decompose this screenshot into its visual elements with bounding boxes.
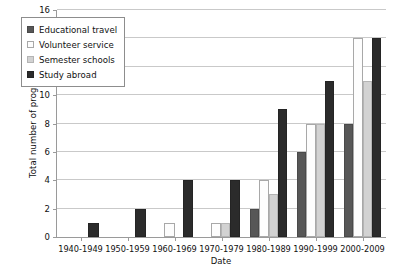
bar	[306, 124, 315, 238]
bar-group: 1980-1989	[245, 10, 292, 237]
bar	[221, 223, 231, 237]
bar-set	[250, 10, 287, 237]
legend-label: Educational travel	[39, 25, 117, 35]
bar-group: 1970-1979	[198, 10, 245, 237]
x-axis-title: Date	[56, 256, 386, 266]
bar	[353, 38, 362, 237]
bar	[230, 180, 240, 237]
bar	[325, 81, 334, 237]
bar	[372, 38, 381, 237]
x-tick-mark	[316, 237, 317, 241]
legend-swatch-icon	[27, 26, 34, 33]
bar	[135, 209, 146, 237]
y-tick-label: 6	[45, 147, 50, 157]
y-tick-label: 10	[39, 90, 50, 100]
bar-set	[344, 10, 381, 237]
y-tick-label: 8	[45, 119, 50, 129]
legend-label: Volunteer service	[39, 40, 114, 50]
x-tick-mark	[175, 237, 176, 241]
bar	[363, 81, 372, 237]
legend-label: Study abroad	[39, 70, 97, 80]
legend-swatch-icon	[27, 71, 34, 78]
bar	[269, 194, 278, 237]
x-tick-label: 1940-1949	[58, 244, 103, 254]
y-tick-label: 0	[45, 232, 50, 242]
x-tick-label: 1950-1959	[105, 244, 150, 254]
legend-swatch-icon	[27, 56, 34, 63]
bar	[278, 109, 287, 237]
bar-group: 1960-1969	[151, 10, 198, 237]
legend-label: Semester schools	[39, 55, 115, 65]
x-tick-mark	[128, 237, 129, 241]
bar-set	[297, 10, 334, 237]
x-tick-label: 1970-1979	[199, 244, 244, 254]
bar	[259, 180, 268, 237]
bar	[164, 223, 174, 237]
bar	[297, 152, 306, 237]
bar	[344, 124, 353, 238]
legend-item: Semester schools	[27, 52, 117, 67]
bar	[211, 223, 221, 237]
bar-chart-figure: Total number of programmes 0246810121416…	[0, 0, 394, 272]
bar-set	[156, 10, 193, 237]
legend-item: Study abroad	[27, 67, 117, 82]
x-tick-label: 2000-2009	[340, 244, 385, 254]
legend-swatch-icon	[27, 41, 34, 48]
x-tick-label: 1990-1999	[293, 244, 338, 254]
y-tick-label: 16	[39, 5, 50, 15]
legend: Educational travelVolunteer serviceSemes…	[21, 17, 125, 87]
bar	[183, 180, 193, 237]
x-tick-mark	[269, 237, 270, 241]
x-tick-mark	[363, 237, 364, 241]
bar-group: 2000-2009	[339, 10, 386, 237]
bar	[250, 209, 259, 237]
bar-group: 1990-1999	[292, 10, 339, 237]
y-tick-mark	[53, 237, 57, 238]
x-tick-mark	[222, 237, 223, 241]
bar	[88, 223, 99, 237]
x-tick-label: 1980-1989	[246, 244, 291, 254]
x-tick-label: 1960-1969	[152, 244, 197, 254]
y-tick-label: 4	[45, 175, 50, 185]
legend-item: Volunteer service	[27, 37, 117, 52]
bar-set	[203, 10, 240, 237]
x-tick-mark	[81, 237, 82, 241]
legend-item: Educational travel	[27, 22, 117, 37]
bar	[316, 124, 325, 238]
y-tick-label: 2	[45, 204, 50, 214]
